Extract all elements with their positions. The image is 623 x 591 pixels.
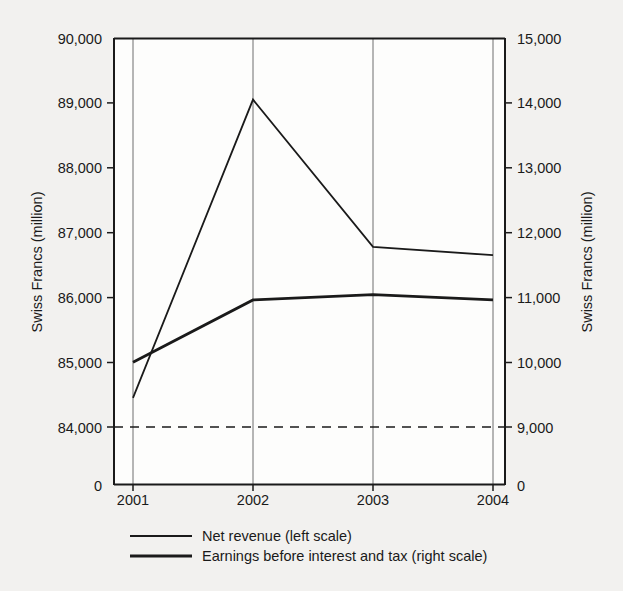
x-tick-label-2003: 2003 xyxy=(357,492,389,508)
right-tick-label-10000: 10,000 xyxy=(517,355,561,371)
plot-area xyxy=(114,38,505,485)
dual-axis-line-chart: 90,000 89,000 88,000 87,000 86,000 85,00… xyxy=(0,0,623,591)
right-tick-label-12000: 12,000 xyxy=(517,225,561,241)
x-tick-label-2001: 2001 xyxy=(117,492,149,508)
left-tick-label-85000: 85,000 xyxy=(58,355,102,371)
right-tick-label-0: 0 xyxy=(517,478,525,494)
x-tick-label-2004: 2004 xyxy=(477,492,509,508)
left-tick-label-84000: 84,000 xyxy=(58,420,102,436)
legend-label-ebit: Earnings before interest and tax (right … xyxy=(202,548,487,564)
left-axis-title: Swiss Francs (million) xyxy=(29,192,45,333)
x-tick-label-2002: 2002 xyxy=(237,492,269,508)
left-tick-label-88000: 88,000 xyxy=(58,160,102,176)
right-tick-label-14000: 14,000 xyxy=(517,95,561,111)
right-axis-title: Swiss Francs (million) xyxy=(579,192,595,333)
left-tick-label-89000: 89,000 xyxy=(58,95,102,111)
right-tick-label-9000: 9,000 xyxy=(517,420,553,436)
legend-label-net-revenue: Net revenue (left scale) xyxy=(202,528,352,544)
right-tick-label-15000: 15,000 xyxy=(517,31,561,47)
right-tick-label-13000: 13,000 xyxy=(517,160,561,176)
left-tick-label-87000: 87,000 xyxy=(58,225,102,241)
left-tick-label-86000: 86,000 xyxy=(58,290,102,306)
left-tick-label-90000: 90,000 xyxy=(58,31,102,47)
left-tick-label-0: 0 xyxy=(94,478,102,494)
chart-figure: 90,000 89,000 88,000 87,000 86,000 85,00… xyxy=(0,0,623,591)
right-tick-label-11000: 11,000 xyxy=(517,290,560,306)
